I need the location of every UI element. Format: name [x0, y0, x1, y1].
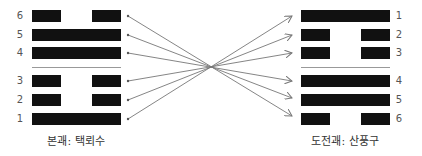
line-number: 1: [394, 10, 404, 22]
hexagram-line-solid: [301, 75, 390, 87]
hexagram-line-broken: [301, 29, 390, 41]
line-number: 6: [394, 113, 404, 125]
hexagram-line-broken: [301, 113, 390, 125]
line-number: 2: [394, 29, 404, 41]
trigram-separator: [301, 67, 390, 68]
line-number: 5: [394, 94, 404, 106]
hexagram-line-solid: [301, 10, 390, 22]
line-number: 3: [394, 47, 404, 59]
hexagram-line-broken: [301, 47, 390, 59]
line-number: 4: [394, 75, 404, 87]
hexagram-line-solid: [301, 94, 390, 106]
right-caption: 도전괘: 산풍구: [295, 132, 395, 148]
